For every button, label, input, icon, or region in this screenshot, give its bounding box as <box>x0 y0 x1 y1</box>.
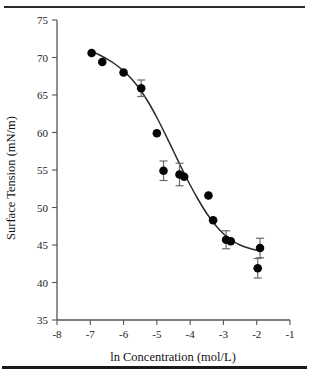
y-tick-label-40: 40 <box>37 277 49 289</box>
y-tick-label-65: 65 <box>37 89 49 101</box>
x-axis-tick-labels: -8-7-6-5-4-3-2-1 <box>52 328 294 340</box>
data-point-9 <box>209 216 218 225</box>
data-points-group <box>87 49 264 273</box>
y-tick-label-60: 60 <box>37 127 49 139</box>
x-axis-tick-marks <box>57 320 290 325</box>
figure-panel: 354045505560657075 -8-7-6-5-4-3-2-1 ln C… <box>0 0 309 375</box>
y-tick-label-50: 50 <box>37 202 49 214</box>
x-tick-label--7: -7 <box>86 328 96 340</box>
data-point-12 <box>253 264 262 273</box>
data-point-3 <box>137 84 146 93</box>
y-tick-label-75: 75 <box>37 14 49 26</box>
data-point-8 <box>204 191 213 200</box>
data-point-13 <box>256 244 265 253</box>
error-bars-group <box>137 80 264 278</box>
y-tick-label-70: 70 <box>37 52 49 64</box>
surface-tension-scatter-chart: 354045505560657075 -8-7-6-5-4-3-2-1 ln C… <box>0 0 309 375</box>
y-tick-label-45: 45 <box>37 239 49 251</box>
data-point-0 <box>87 49 96 58</box>
x-tick-label--2: -2 <box>252 328 261 340</box>
x-axis-title: ln Concentration (mol/L) <box>110 350 236 364</box>
data-point-4 <box>153 129 162 138</box>
y-axis-tick-labels: 354045505560657075 <box>37 14 49 326</box>
x-tick-label--3: -3 <box>219 328 229 340</box>
data-point-2 <box>119 68 128 77</box>
fit-curve <box>90 51 261 251</box>
data-point-1 <box>98 58 107 67</box>
bottom-divider-rule <box>2 366 307 369</box>
x-tick-label--1: -1 <box>285 328 294 340</box>
data-point-7 <box>180 172 189 181</box>
x-tick-label--8: -8 <box>52 328 62 340</box>
x-tick-label--4: -4 <box>186 328 196 340</box>
y-tick-label-35: 35 <box>37 314 49 326</box>
y-tick-label-55: 55 <box>37 164 49 176</box>
x-tick-label--5: -5 <box>152 328 162 340</box>
y-axis-title: Surface Tension (mN/m) <box>4 116 18 240</box>
x-tick-label--6: -6 <box>119 328 129 340</box>
data-point-5 <box>159 166 168 175</box>
data-point-11 <box>226 237 235 246</box>
y-axis-tick-marks <box>52 20 57 320</box>
